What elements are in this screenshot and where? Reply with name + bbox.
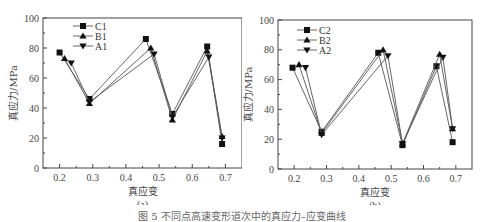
y-tick-label: 80	[29, 43, 39, 54]
y-tick-label: 0	[34, 163, 39, 174]
data-point-square	[450, 139, 456, 145]
x-tick-label: 0.7	[450, 173, 463, 184]
chart-panel-b: 0204060801000.20.30.40.50.60.7真应变真应力/MPa…	[242, 0, 484, 205]
x-tick-label: 0.7	[219, 172, 232, 183]
y-tick-label: 40	[29, 103, 39, 114]
x-axis-title: 真应变	[128, 185, 158, 197]
y-tick-label: 20	[264, 134, 274, 145]
data-point-triangle-down	[205, 54, 212, 60]
y-tick-label: 20	[29, 133, 39, 144]
data-point-triangle-up	[295, 61, 302, 67]
panel-label: (b)	[369, 200, 381, 205]
data-point-square	[290, 65, 296, 71]
x-tick-label: 0.3	[87, 172, 100, 183]
legend: C1B1A1	[73, 21, 107, 52]
x-tick-label: 0.4	[120, 172, 133, 183]
legend-label-a2: A2	[319, 45, 331, 56]
series-line	[65, 48, 223, 137]
series-line	[293, 53, 453, 145]
y-tick-label: 60	[29, 73, 39, 84]
x-tick-label: 0.5	[385, 173, 398, 184]
series-c1	[57, 36, 226, 147]
figure-caption: 图 5 不同点高速变形道次中的真应力–应变曲线	[0, 208, 484, 222]
y-tick-label: 0	[269, 164, 274, 175]
data-point-square	[57, 50, 63, 56]
data-point-square	[143, 36, 149, 42]
series-line	[305, 56, 452, 144]
plot-frame	[43, 18, 242, 168]
panel-label: (a)	[137, 199, 148, 205]
data-point-square	[219, 141, 225, 147]
legend-marker-square	[304, 27, 310, 33]
y-tick-label: 40	[264, 104, 274, 115]
x-tick-label: 0.2	[53, 172, 66, 183]
data-point-triangle-down	[302, 65, 309, 71]
legend-label-a1: A1	[95, 41, 107, 52]
series-a2	[302, 53, 456, 147]
legend-marker-triangle-up	[303, 36, 310, 42]
x-tick-label: 0.3	[320, 173, 333, 184]
x-tick-label: 0.2	[288, 173, 301, 184]
data-point-triangle-down	[169, 114, 176, 120]
legend-marker-triangle-down	[79, 43, 86, 49]
x-tick-label: 0.6	[186, 172, 199, 183]
y-axis-title: 真应力/MPa	[7, 65, 19, 121]
x-tick-label: 0.4	[353, 173, 366, 184]
series-line	[60, 39, 223, 144]
data-point-triangle-up	[379, 46, 386, 52]
y-tick-label: 80	[264, 44, 274, 55]
x-tick-label: 0.6	[417, 173, 430, 184]
legend: C2B2A2	[297, 25, 331, 56]
y-tick-label: 100	[259, 15, 274, 26]
chart-b-svg: 0204060801000.20.30.40.50.60.7真应变真应力/MPa…	[242, 0, 484, 205]
y-tick-label: 100	[24, 13, 39, 24]
legend-marker-square	[80, 23, 86, 29]
x-axis-title: 真应变	[360, 186, 390, 198]
legend-marker-triangle-up	[79, 32, 86, 38]
y-tick-label: 60	[264, 74, 274, 85]
y-axis-title: 真应力/MPa	[242, 67, 254, 123]
chart-panel-a: 0204060801000.20.30.40.50.60.7真应变真应力/MPa…	[0, 0, 242, 205]
x-tick-label: 0.5	[153, 172, 166, 183]
legend-marker-triangle-down	[303, 47, 310, 53]
chart-a-svg: 0204060801000.20.30.40.50.60.7真应变真应力/MPa…	[0, 0, 242, 205]
